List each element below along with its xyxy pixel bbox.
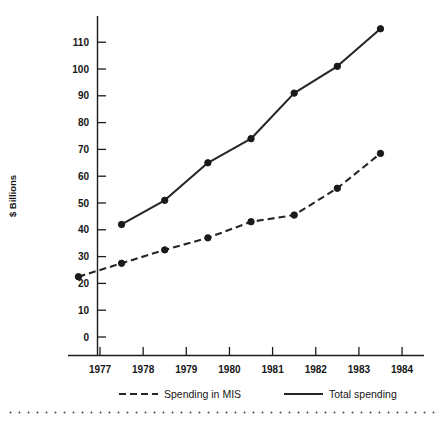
x-tick-label-1979: 1979 [175, 364, 198, 375]
y-tick-label-70: 70 [78, 144, 90, 155]
data-point [118, 260, 124, 266]
x-tick-label-1982: 1982 [305, 364, 328, 375]
y-tick-label-90: 90 [78, 90, 90, 101]
data-series-layer [75, 26, 383, 280]
series-spending-in-mis [75, 150, 383, 280]
y-tick-label-100: 100 [72, 64, 89, 75]
bottom-dotted-rule [6, 411, 435, 414]
data-point [75, 274, 81, 280]
x-tick-label-1981: 1981 [261, 364, 284, 375]
x-axis-ticks [100, 347, 402, 356]
y-tick-label-50: 50 [78, 198, 90, 209]
y-axis-tick-labels: 0102030405060708090100110 [72, 37, 89, 343]
y-tick-label-10: 10 [78, 305, 90, 316]
x-tick-label-1978: 1978 [132, 364, 155, 375]
legend-label-total-spending: Total spending [329, 388, 397, 400]
series-total-spending [118, 26, 383, 228]
data-point [334, 63, 340, 69]
x-tick-label-1983: 1983 [348, 364, 371, 375]
series-line-total-spending [122, 29, 381, 225]
data-point [162, 247, 168, 253]
data-point [205, 235, 211, 241]
y-tick-label-30: 30 [78, 251, 90, 262]
y-tick-label-110: 110 [73, 37, 90, 48]
data-point [377, 150, 383, 156]
series-line-spending-in-mis [78, 153, 380, 276]
data-point [291, 212, 297, 218]
legend-label-spending-in-mis: Spending in MIS [164, 388, 241, 400]
y-tick-label-60: 60 [78, 171, 90, 182]
data-point [334, 185, 340, 191]
y-axis-ticks [98, 42, 107, 337]
line-chart: 0102030405060708090100110 19771978197919… [0, 0, 439, 421]
chart-container: 0102030405060708090100110 19771978197919… [0, 0, 439, 421]
data-point [248, 219, 254, 225]
x-axis-tick-labels: 19771978197919801981198219831984 [89, 364, 414, 375]
data-point [205, 160, 211, 166]
x-tick-label-1980: 1980 [218, 364, 241, 375]
y-tick-label-80: 80 [78, 117, 90, 128]
x-tick-label-1984: 1984 [391, 364, 414, 375]
chart-legend: Spending in MIS Total spending [119, 388, 397, 400]
axes [68, 16, 424, 356]
y-tick-label-0: 0 [83, 332, 89, 343]
y-tick-label-40: 40 [78, 224, 90, 235]
data-point [248, 135, 254, 141]
y-axis-title: $ Billions [7, 175, 18, 217]
data-point [377, 26, 383, 32]
data-point [118, 221, 124, 227]
data-point [162, 197, 168, 203]
data-point [291, 90, 297, 96]
x-tick-label-1977: 1977 [89, 364, 112, 375]
